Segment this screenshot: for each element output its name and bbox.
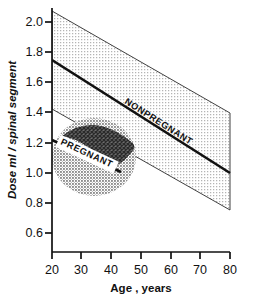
y-tick-label-3: 1.4 (26, 105, 43, 119)
x-tick-label-4: 60 (164, 263, 178, 277)
y-tick-label-6: 0.8 (26, 196, 43, 210)
x-tick-label-0: 20 (45, 263, 59, 277)
y-ticks (45, 22, 52, 233)
x-axis-title: Age , years (110, 282, 171, 294)
x-tick-label-5: 70 (193, 263, 207, 277)
y-tick-label-2: 1.6 (26, 75, 43, 89)
y-tick-label-0: 2.0 (26, 15, 43, 29)
y-tick-label-7: 0.6 (26, 226, 43, 240)
x-tick-labels: 20 30 40 50 60 70 80 (45, 263, 237, 277)
x-tick-label-1: 30 (74, 263, 88, 277)
y-tick-labels: 2.0 1.8 1.6 1.4 1.2 1.0 0.8 0.6 (26, 15, 43, 240)
chart-canvas: NONPREGNANT PREGNANT 2.0 1.8 1.6 1.4 (0, 0, 256, 302)
y-tick-label-4: 1.2 (26, 136, 43, 150)
x-tick-label-3: 50 (134, 263, 148, 277)
chart-figure: NONPREGNANT PREGNANT 2.0 1.8 1.6 1.4 (0, 0, 256, 302)
y-tick-label-1: 1.8 (26, 45, 43, 59)
y-tick-label-5: 1.0 (26, 166, 43, 180)
x-tick-label-6: 80 (223, 263, 237, 277)
x-ticks (52, 252, 230, 259)
x-tick-label-2: 40 (104, 263, 118, 277)
y-axis-title: Dose ml / spinal segment (6, 60, 18, 199)
